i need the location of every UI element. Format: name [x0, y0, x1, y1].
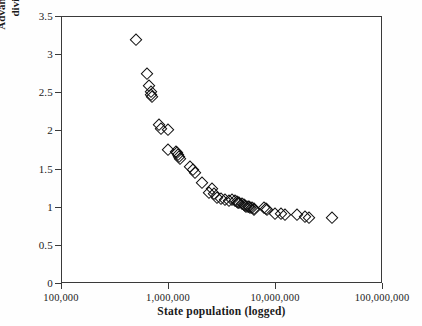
y-axis-tick-label: 0.5	[39, 239, 53, 251]
data-point	[129, 34, 142, 47]
x-axis-tick-label: 100,000,000	[355, 292, 410, 303]
x-axis-tick-label: 10,000,000	[250, 292, 299, 303]
y-axis-tick	[55, 16, 61, 17]
y-axis-tick	[55, 169, 61, 170]
x-axis-tick	[61, 283, 62, 289]
x-axis-tick	[275, 283, 276, 289]
y-axis-tick	[55, 130, 61, 131]
y-axis-tick-label: 1.5	[39, 163, 53, 175]
data-point	[141, 67, 154, 80]
y-axis-tick	[55, 54, 61, 55]
x-axis-tick-label: 100,000	[43, 292, 79, 303]
x-axis-tick	[382, 283, 383, 289]
y-axis-tick	[55, 92, 61, 93]
y-axis-tick-label: 0	[47, 277, 53, 289]
y-axis-tick	[55, 245, 61, 246]
y-axis-tick-label: 1	[47, 201, 53, 213]
y-axis-title: Advantage ratio (percent of electoral vo…	[0, 0, 22, 46]
y-axis-tick-label: 2.5	[39, 86, 53, 98]
y-axis-tick-label: 2	[47, 124, 53, 136]
data-point	[325, 212, 338, 225]
y-axis-tick-label: 3.5	[39, 10, 53, 22]
scatter-chart-figure: 00.511.522.533.5 100,0001,000,00010,000,…	[0, 0, 422, 326]
x-axis-tick	[168, 283, 169, 289]
y-axis-tick	[55, 207, 61, 208]
plot-area: 00.511.522.533.5 100,0001,000,00010,000,…	[61, 16, 382, 283]
x-axis-tick-label: 1,000,000	[146, 292, 190, 303]
x-axis-title: State population (logged)	[61, 305, 382, 317]
y-axis-tick-label: 3	[47, 48, 53, 60]
